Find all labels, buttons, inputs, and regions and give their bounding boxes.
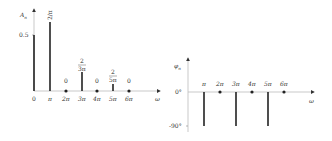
right-xtick-5pi: 5π — [264, 80, 273, 87]
right-xtick-3pi: 3π — [232, 80, 241, 87]
left-xtick-2pi: 2π — [61, 95, 71, 102]
right-xlabel: ω — [309, 97, 314, 104]
stem-6pi — [127, 89, 130, 92]
phase-stem-4pi — [250, 90, 253, 93]
right-xtick-pi: π — [201, 80, 207, 87]
label-2pi-value: 0 — [64, 77, 68, 84]
left-ylabel: An — [19, 11, 27, 20]
label-3pi-den: 3π — [78, 65, 86, 72]
label-3pi-num: 2 — [80, 57, 84, 64]
right-ylabel: φn — [174, 62, 181, 71]
right-xtick-4pi: 4π — [247, 80, 257, 87]
left-xtick-pi: π — [47, 95, 53, 102]
left-xtick-3pi: 3π — [78, 95, 87, 102]
left-xtick-4pi: 4π — [92, 95, 102, 102]
right-xtick-6pi: 6π — [280, 80, 289, 87]
left-xtick-5pi: 5π — [109, 95, 118, 102]
left-xtick-0: 0 — [32, 95, 36, 102]
phase-spectrum-chart: φn 0° -90° π 2π 3π 4π 5π 6π ω — [169, 58, 314, 132]
stem-4pi — [95, 89, 98, 92]
label-5pi-num: 2 — [111, 68, 115, 75]
label-pi-value: 2/π — [46, 10, 53, 20]
left-xlabel: ω — [155, 95, 160, 102]
stem-2pi — [64, 89, 67, 92]
label-5pi-den: 5π — [109, 76, 117, 83]
right-ytick-neg90: -90° — [169, 122, 182, 129]
label-6pi-value: 0 — [127, 77, 131, 84]
left-ytick-0.5: 0.5 — [19, 31, 29, 38]
right-xtick-2pi: 2π — [215, 80, 225, 87]
label-4pi-value: 0 — [95, 77, 99, 84]
phase-stem-6pi — [282, 90, 285, 93]
amplitude-spectrum-chart: An 0.5 2/π 0 2 3π 0 2 5π 0 0 π 2π 3π 4π … — [19, 9, 160, 102]
left-xtick-6pi: 6π — [125, 95, 134, 102]
amplitude-phase-spectrum-figure: An 0.5 2/π 0 2 3π 0 2 5π 0 0 π 2π 3π 4π … — [0, 0, 332, 141]
right-ytick-0: 0° — [175, 88, 182, 95]
phase-stem-2pi — [218, 90, 221, 93]
